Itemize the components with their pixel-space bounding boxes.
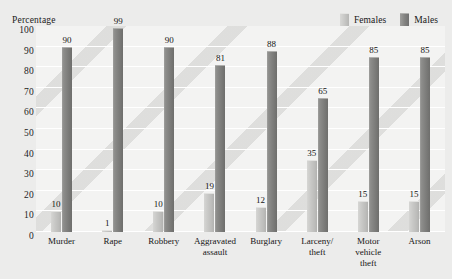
bar-females bbox=[204, 193, 214, 232]
plot-area: 1090199109019811288356515851585 bbox=[36, 26, 445, 232]
x-axis-tick-label: Arson bbox=[387, 236, 451, 247]
y-axis: 0102030405060708090100 bbox=[0, 26, 34, 232]
bar-face bbox=[204, 193, 214, 232]
bar-face bbox=[153, 211, 163, 232]
bar-face bbox=[420, 57, 430, 232]
bar-females bbox=[409, 201, 419, 232]
bar-face bbox=[113, 28, 123, 232]
bar-face bbox=[307, 160, 317, 232]
bar-value-label: 99 bbox=[114, 17, 123, 26]
bar-face bbox=[164, 47, 174, 232]
bar-chart-figure: Percentage 0102030405060708090100 109019… bbox=[0, 0, 452, 279]
y-axis-title: Percentage bbox=[12, 15, 56, 25]
male-swatch-icon bbox=[400, 13, 409, 26]
bar-face bbox=[267, 51, 277, 232]
bar-females bbox=[153, 211, 163, 232]
bar-face bbox=[215, 65, 225, 232]
bar-females bbox=[358, 201, 368, 232]
bar-group bbox=[256, 26, 277, 232]
bar-males bbox=[164, 47, 174, 232]
bar-females bbox=[256, 207, 266, 232]
bar-face bbox=[358, 201, 368, 232]
bar-males bbox=[62, 47, 72, 232]
x-axis: MurderRapeRobberyAggravatedassaultBurgla… bbox=[36, 236, 445, 276]
bar-face bbox=[256, 207, 266, 232]
bar-face bbox=[318, 98, 328, 232]
bar-face bbox=[51, 211, 61, 232]
bar-females bbox=[102, 230, 112, 232]
legend-item-females: Females bbox=[340, 13, 386, 26]
bar-females bbox=[51, 211, 61, 232]
legend-label: Males bbox=[414, 15, 438, 25]
bar-group bbox=[307, 26, 328, 232]
bar-face bbox=[369, 57, 379, 232]
bar-group bbox=[51, 26, 72, 232]
legend: FemalesMales bbox=[340, 13, 438, 26]
bar-males bbox=[420, 57, 430, 232]
bar-males bbox=[318, 98, 328, 232]
bar-males bbox=[267, 51, 277, 232]
bar-group bbox=[153, 26, 174, 232]
bar-males bbox=[113, 28, 123, 232]
legend-item-males: Males bbox=[400, 13, 438, 26]
bar-face bbox=[409, 201, 419, 232]
bar-group bbox=[204, 26, 225, 232]
female-swatch-icon bbox=[340, 13, 349, 26]
bar-face bbox=[62, 47, 72, 232]
legend-label: Females bbox=[354, 15, 386, 25]
bar-group bbox=[409, 26, 430, 232]
bar-face bbox=[102, 230, 112, 232]
bar-group bbox=[358, 26, 379, 232]
bar-males bbox=[215, 65, 225, 232]
bar-females bbox=[307, 160, 317, 232]
bar-males bbox=[369, 57, 379, 232]
bar-group bbox=[102, 26, 123, 232]
